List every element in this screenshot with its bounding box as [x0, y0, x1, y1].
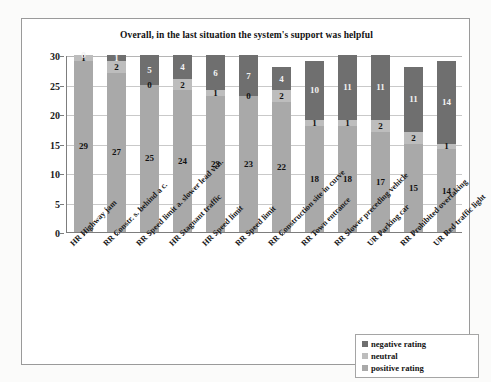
bar-value-label-neu: 0 — [246, 92, 251, 101]
bar-value-label-neg: 11 — [376, 83, 385, 92]
y-axis-tick-mark — [60, 86, 64, 87]
y-axis-tick-mark — [60, 174, 64, 175]
bar-value-label-pos: 15 — [409, 184, 418, 193]
x-axis-labels: HR Highway jamRR Constr. s. behind a c.R… — [66, 235, 466, 345]
bar-value-label-neu: 2 — [411, 134, 416, 143]
bar-value-label-pos: 17 — [376, 178, 385, 187]
bar-value-label-neg: 5 — [147, 66, 152, 75]
y-axis-tick-label: 30 — [20, 51, 60, 62]
bar-group: 2910 — [74, 55, 93, 232]
bar-value-label-pos: 23 — [244, 160, 253, 169]
bar-value-label-pos: 27 — [112, 148, 121, 157]
bar-value-label-neg: 1 — [114, 54, 119, 63]
bar-value-label-neu: 1 — [345, 119, 350, 128]
legend-swatch-icon — [362, 365, 368, 371]
bar-value-label-neg: 4 — [180, 63, 185, 72]
y-axis-tick-label: 15 — [20, 139, 60, 150]
legend-label: neutral — [371, 351, 398, 361]
legend-item: neutral — [362, 350, 474, 362]
y-axis-tick-mark — [60, 145, 64, 146]
y-axis-tick-mark — [60, 204, 64, 205]
legend-swatch-icon — [362, 353, 368, 359]
bar-value-label-pos: 18 — [310, 175, 319, 184]
bar-value-label-neg: 10 — [310, 86, 319, 95]
y-axis-tick-mark — [60, 115, 64, 116]
bar-value-label-pos: 29 — [79, 142, 88, 151]
y-axis-tick-label: 10 — [20, 169, 60, 180]
bar-value-label-neg: 0 — [81, 51, 86, 60]
bar-value-label-pos: 22 — [277, 163, 286, 172]
legend-swatch-icon — [362, 341, 368, 347]
bar-group: 2307 — [239, 55, 258, 232]
bar-value-label-neu: 1 — [312, 119, 317, 128]
legend-item: negative rating — [362, 338, 474, 350]
bar-value-label-pos: 24 — [178, 157, 187, 166]
chart-figure: Overall, in the last situation the syste… — [0, 0, 491, 382]
chart-legend: negative ratingneutralpositive rating — [355, 334, 479, 378]
y-axis-tick-label: 0 — [20, 228, 60, 239]
bar-value-label-neg: 6 — [213, 69, 218, 78]
legend-label: negative rating — [371, 339, 426, 349]
bar-value-label-neu: 2 — [378, 122, 383, 131]
chart-title: Overall, in the last situation the syste… — [22, 30, 471, 40]
bar-value-label-neu: 2 — [279, 92, 284, 101]
bar-value-label-neu: 2 — [114, 63, 119, 72]
bar-value-label-neg: 11 — [343, 83, 352, 92]
y-axis-tick-label: 20 — [20, 110, 60, 121]
y-axis-tick-mark — [60, 233, 64, 234]
bar-value-label-neg: 11 — [409, 95, 418, 104]
y-axis-tick-label: 5 — [20, 198, 60, 209]
y-axis-tick-label: 25 — [20, 80, 60, 91]
bar-value-label-neu: 0 — [147, 81, 152, 90]
chart-frame: Overall, in the last situation the syste… — [21, 18, 470, 365]
legend-label: positive rating — [371, 363, 424, 373]
bar-value-label-neg: 4 — [279, 75, 284, 84]
bar-value-label-neu: 1 — [444, 142, 449, 151]
y-axis: 051015202530 — [22, 56, 60, 233]
bar-value-label-pos: 25 — [145, 154, 154, 163]
bar-value-label-neg: 14 — [442, 98, 451, 107]
y-axis-tick-mark — [60, 56, 64, 57]
bar-value-label-neu: 2 — [180, 81, 185, 90]
legend-item: positive rating — [362, 362, 474, 374]
bar-value-label-neg: 7 — [246, 72, 251, 81]
bar-value-label-neu: 1 — [213, 89, 218, 98]
